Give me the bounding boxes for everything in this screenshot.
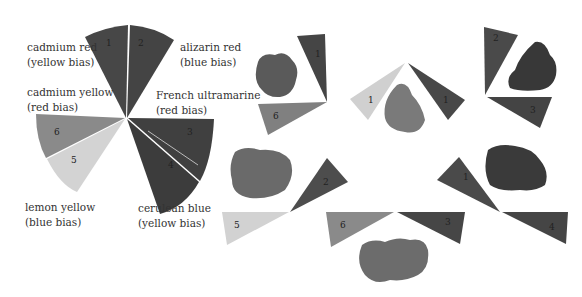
svg-text:2: 2: [493, 33, 499, 43]
label-french-ultramarine: French ultramarine (red bias): [156, 88, 260, 118]
svg-text:3: 3: [530, 105, 536, 115]
mix-group-alizarin-ultramarine: 2 3: [484, 27, 556, 128]
label-cadmium-red: cadmium red (yellow bias): [27, 40, 97, 70]
mix-group-cadred-cadyellow: 1 6: [256, 34, 327, 135]
label-name: alizarin red: [180, 40, 241, 55]
mix-group-lemon-cadred: 1 1: [350, 63, 465, 133]
svg-text:4: 4: [549, 222, 555, 232]
svg-text:5: 5: [71, 155, 77, 165]
label-bias: (yellow bias): [138, 216, 211, 231]
mix-group-yellow-blue: 6 3: [326, 212, 465, 282]
label-name: cadmium yellow: [27, 85, 113, 100]
label-name: lemon yellow: [25, 200, 95, 215]
svg-text:1: 1: [106, 38, 112, 48]
svg-text:1: 1: [315, 49, 321, 59]
label-name: French ultramarine: [156, 88, 260, 103]
svg-text:2: 2: [138, 38, 144, 48]
label-bias: (red bias): [156, 103, 260, 118]
label-name: cadmium red: [27, 40, 97, 55]
label-cadmium-yellow: cadmium yellow (red bias): [27, 85, 113, 115]
svg-text:1: 1: [443, 95, 449, 105]
label-alizarin-red: alizarin red (blue bias): [180, 40, 241, 70]
label-bias: (yellow bias): [27, 55, 97, 70]
label-cerulean-blue: cerulean blue (yellow bias): [138, 201, 211, 231]
svg-text:6: 6: [340, 220, 346, 230]
label-name: cerulean blue: [138, 201, 211, 216]
svg-text:1: 1: [463, 172, 469, 182]
svg-text:6: 6: [273, 111, 279, 121]
svg-text:3: 3: [187, 127, 193, 137]
label-bias: (blue bias): [180, 55, 241, 70]
svg-text:3: 3: [445, 217, 451, 227]
label-bias: (red bias): [27, 100, 113, 115]
svg-text:6: 6: [54, 127, 60, 137]
svg-text:4: 4: [168, 160, 174, 170]
svg-text:5: 5: [234, 220, 240, 230]
svg-text:1: 1: [368, 95, 374, 105]
label-bias: (blue bias): [25, 215, 95, 230]
svg-text:2: 2: [323, 177, 329, 187]
label-lemon-yellow: lemon yellow (blue bias): [25, 200, 95, 230]
